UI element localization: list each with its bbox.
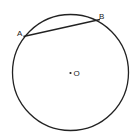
center-o-label: O	[74, 69, 80, 78]
point-a-label: A	[17, 29, 23, 38]
chord-ab	[24, 20, 101, 37]
center-point	[69, 72, 71, 74]
point-b-label: B	[99, 12, 104, 21]
circle-diagram: A B O	[0, 0, 139, 136]
